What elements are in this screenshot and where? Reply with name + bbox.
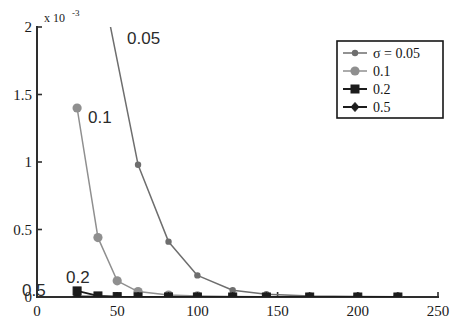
y-axis-exponent: x 10-3 (44, 8, 80, 25)
legend-label: 0.1 (373, 64, 391, 79)
legend-label: σ = 0.05 (373, 46, 420, 61)
data-point (165, 238, 171, 244)
data-point (165, 293, 173, 301)
data-point (113, 293, 121, 301)
x-tick-label: 250 (427, 303, 450, 319)
data-point (73, 287, 81, 295)
legend-label: 0.2 (373, 82, 391, 97)
y-tick-label: 0.5 (13, 222, 32, 238)
curve-annotation: 0.5 (22, 281, 46, 300)
legend-marker (351, 85, 359, 93)
data-point (93, 233, 102, 242)
legend: σ = 0.050.10.20.5 (337, 41, 443, 118)
x-tick-label: 100 (186, 303, 209, 319)
y-tick-label: 2 (25, 19, 33, 35)
line-chart: 05010015020025000.511.52x 10-30.050.10.2… (0, 0, 467, 327)
data-point (134, 293, 142, 301)
data-point (94, 292, 102, 300)
series-sigma-0-1 (73, 103, 403, 301)
exponent-base: x 10 (44, 11, 65, 25)
data-point (113, 276, 122, 285)
legend-label: 0.5 (373, 100, 391, 115)
x-tick-label: 0 (33, 303, 41, 319)
series-sigma-0-2 (73, 287, 402, 301)
data-point (262, 293, 270, 301)
y-tick-label: 1 (25, 154, 33, 170)
data-point (354, 293, 362, 301)
curve-annotation: 0.05 (127, 29, 160, 48)
x-tick-label: 150 (266, 303, 289, 319)
data-point (193, 293, 201, 301)
data-point (135, 162, 141, 168)
data-point (306, 293, 314, 301)
legend-marker (352, 50, 358, 56)
chart-container: 05010015020025000.511.52x 10-30.050.10.2… (0, 0, 467, 327)
exponent-superscript: -3 (72, 8, 80, 18)
legend-marker (350, 66, 359, 75)
y-tick-label: 1.5 (13, 87, 32, 103)
data-point (394, 293, 402, 301)
data-point (229, 293, 237, 301)
x-tick-label: 200 (347, 303, 370, 319)
data-point (194, 272, 200, 278)
x-tick-label: 50 (110, 303, 125, 319)
curve-annotation: 0.2 (66, 268, 90, 287)
data-point (73, 103, 82, 112)
curve-annotation: 0.1 (88, 108, 112, 127)
series-line (77, 108, 398, 297)
